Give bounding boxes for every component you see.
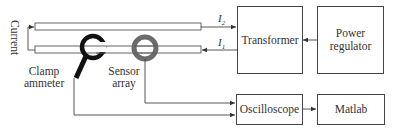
power-regulator-block: Power regulator [317, 6, 384, 74]
top-conductor [35, 23, 201, 30]
clamp-to-oscilloscope-line [74, 78, 235, 115]
current-loop-line [28, 27, 35, 50]
sensor-array-label: Sensor array [108, 65, 140, 89]
sensor-to-oscilloscope-line [145, 59, 235, 103]
i1-label: I1 [218, 36, 225, 51]
oscilloscope-block: Oscilloscope [236, 94, 303, 125]
clamp-ammeter-icon [76, 36, 106, 78]
current-label: Current [9, 20, 21, 55]
i2-label: I2 [218, 12, 225, 27]
transformer-block: Transformer [237, 6, 303, 74]
clamp-ammeter-label: Clamp ammeter [24, 65, 64, 89]
bottom-conductor [35, 46, 201, 53]
matlab-block: Matlab [317, 94, 385, 125]
